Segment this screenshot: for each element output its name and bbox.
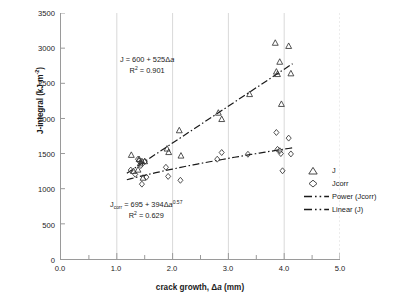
annotation-linear-equation: J = 600 + 525Δa	[120, 55, 174, 66]
data-point-jcorr-5	[139, 181, 144, 187]
x-tick-label-1: 1.0	[96, 264, 136, 273]
data-point-jcorr-18	[280, 168, 285, 174]
y-tick-label-3500: 3500	[11, 8, 55, 17]
trendline-power-jcorr	[127, 148, 293, 180]
annotation-linear-fit: J = 600 + 525Δa R2 = 0.901	[120, 55, 174, 76]
diamond-marker-icon	[304, 177, 330, 190]
y-axis-title-exponent: -2	[34, 70, 40, 75]
annotation-linear-r2: R2 = 0.901	[120, 66, 174, 77]
annotation-power-eq-sub: corr	[114, 205, 122, 210]
legend-label-power-jcorr: Power (Jcorr)	[330, 193, 376, 200]
dash-dot-line-icon	[304, 190, 330, 203]
x-tick-label-3: 3.0	[208, 264, 248, 273]
dash-dot-line-icon-2	[304, 203, 330, 216]
annotation-linear-eq-var: a	[170, 55, 174, 64]
annotation-power-eq-exp: 0.57	[173, 199, 183, 205]
x-axis-title-post: (mm)	[222, 283, 244, 292]
x-tick-label-5: 5.0	[320, 264, 360, 273]
legend-item-j[interactable]: J	[304, 164, 376, 177]
legend-label-j: J	[330, 167, 336, 174]
trendlines-group	[127, 64, 293, 180]
annotation-power-equation: Jcorr = 695 + 394Δa0.57	[110, 200, 182, 211]
legend-label-jcorr: Jcorr	[330, 180, 348, 187]
series-Jcorr-markers	[128, 129, 293, 187]
y-tick-label-2500: 2500	[11, 79, 55, 88]
x-axis-title-pre: crack growth, Δ	[156, 283, 217, 292]
data-point-jcorr-14	[274, 129, 279, 135]
x-tick-label-0: 0.0	[40, 264, 80, 273]
legend-item-jcorr[interactable]: Jcorr	[304, 177, 376, 190]
y-tick-label-500: 500	[11, 220, 55, 229]
x-axis-title: crack growth, Δa (mm)	[60, 283, 340, 292]
y-tick-label-1000: 1000	[11, 185, 55, 194]
trendline-linear-j	[127, 64, 293, 174]
annotation-power-r2: R2 = 0.629	[110, 211, 182, 222]
data-point-jcorr-10	[178, 177, 183, 183]
plot-area	[60, 13, 340, 260]
annotation-power-fit: Jcorr = 695 + 394Δa0.57 R2 = 0.629	[110, 200, 182, 221]
data-point-j-11	[178, 153, 184, 158]
data-point-jcorr-8	[163, 164, 168, 170]
legend-item-power-jcorr[interactable]: Power (Jcorr)	[304, 190, 376, 203]
data-point-j-20	[286, 43, 292, 48]
data-point-j-0	[128, 152, 134, 157]
data-point-jcorr-9	[166, 173, 171, 179]
data-point-jcorr-20	[288, 151, 293, 157]
data-layer	[61, 13, 340, 259]
chart-figure: J-integral (kJ·m-2) 0 500 1000 1500 2000…	[0, 0, 399, 308]
data-point-jcorr-12	[219, 150, 224, 156]
data-point-j-18	[277, 59, 283, 64]
data-point-jcorr-11	[215, 156, 220, 162]
legend-label-linear-j: Linear (J)	[330, 206, 363, 213]
y-tick-label-1500: 1500	[11, 150, 55, 159]
data-point-jcorr-19	[286, 135, 291, 141]
annotation-power-r-value: = 0.629	[137, 211, 164, 220]
chart-legend: J Jcorr Power (Jcorr)	[304, 164, 376, 216]
data-point-j-19	[278, 101, 284, 106]
data-point-j-10	[176, 127, 182, 132]
annotation-linear-r-value: = 0.901	[138, 66, 165, 75]
x-tick-label-4: 4.0	[264, 264, 304, 273]
data-point-j-13	[219, 116, 225, 121]
y-tick-label-2000: 2000	[11, 114, 55, 123]
legend-item-linear-j[interactable]: Linear (J)	[304, 203, 376, 216]
x-tick-label-2: 2.0	[152, 264, 192, 273]
data-point-j-9	[166, 149, 172, 154]
y-tick-label-3000: 3000	[11, 44, 55, 53]
triangle-marker-icon	[304, 164, 330, 177]
y-axis-title-close: )	[36, 67, 45, 70]
data-point-j-15	[272, 40, 278, 45]
data-point-j-21	[288, 70, 294, 75]
annotation-linear-eq-text: J = 600 + 525	[120, 55, 165, 64]
annotation-power-eq-mid: = 695 + 394	[122, 200, 164, 209]
